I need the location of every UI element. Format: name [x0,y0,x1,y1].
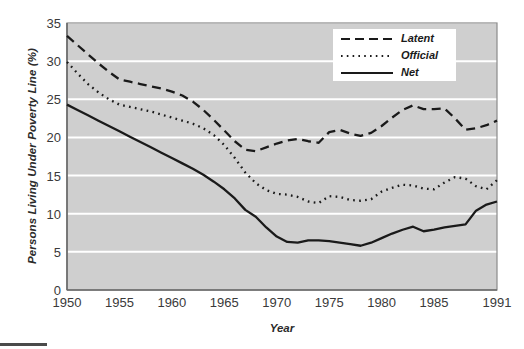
x-axis-label: Year [67,322,497,334]
legend-label-net: Net [401,66,419,78]
legend-item-net: Net [333,64,456,81]
scan-artifact-mark [0,343,47,346]
chart-legend: Latent Official Net [333,29,456,81]
legend-item-official: Official [333,47,456,64]
legend-swatch-dotted-icon [341,55,393,57]
legend-item-latent: Latent [333,30,456,47]
legend-label-latent: Latent [401,32,434,44]
legend-label-official: Official [401,49,438,61]
chart-figure: Persons Living Under Poverty Line (%) 05… [0,0,524,349]
legend-swatch-dashed-icon [341,38,393,40]
legend-swatch-solid-icon [341,72,393,74]
